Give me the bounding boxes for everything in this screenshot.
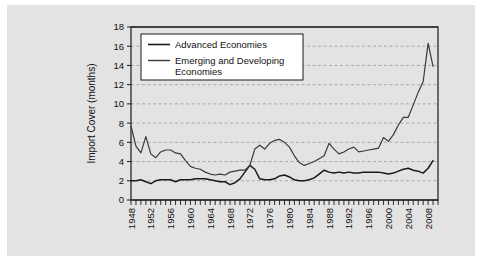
- x-tick-label-1996: 1996: [363, 208, 374, 229]
- x-tick-label-2000: 2000: [383, 208, 394, 229]
- x-tick-label-1992: 1992: [343, 208, 354, 229]
- x-tick-label-1960: 1960: [185, 208, 196, 229]
- x-tick-label-1972: 1972: [244, 208, 255, 229]
- legend-label-0: Advanced Economies: [175, 39, 267, 50]
- x-tick-label-1964: 1964: [205, 208, 216, 229]
- figure-container: 024681012141618 194819521956196019641968…: [0, 0, 482, 261]
- y-tick-label-16: 16: [113, 41, 124, 52]
- x-tick-label-1984: 1984: [304, 208, 315, 229]
- x-axis-ticks-group: [131, 200, 438, 205]
- chart-legend: Advanced EconomiesEmerging and Developin…: [141, 34, 303, 80]
- y-tick-label-6: 6: [119, 137, 124, 148]
- y-tick-label-4: 4: [119, 156, 124, 167]
- x-tick-label-1956: 1956: [165, 208, 176, 229]
- x-tick-label-1952: 1952: [145, 208, 156, 229]
- x-tick-label-1976: 1976: [264, 208, 275, 229]
- y-axis-tick-labels-group: 024681012141618: [113, 21, 124, 205]
- x-tick-label-1968: 1968: [225, 208, 236, 229]
- x-tick-label-1980: 1980: [284, 208, 295, 229]
- legend-label-1-cont: Economies: [175, 66, 222, 77]
- x-tick-label-1948: 1948: [126, 208, 137, 229]
- y-tick-label-2: 2: [119, 175, 124, 186]
- y-axis-title: Import Cover (months): [86, 63, 97, 163]
- legend-label-1: Emerging and Developing: [175, 55, 284, 66]
- y-tick-label-12: 12: [113, 79, 124, 90]
- x-axis-tick-labels-group: 1948195219561960196419681972197619801984…: [126, 208, 434, 229]
- x-tick-label-1988: 1988: [324, 208, 335, 229]
- y-tick-label-18: 18: [113, 21, 124, 32]
- x-tick-label-2004: 2004: [403, 208, 414, 229]
- y-tick-label-0: 0: [119, 194, 124, 205]
- import-cover-line-chart: 024681012141618 194819521956196019641968…: [7, 5, 475, 256]
- chart-plate: 024681012141618 194819521956196019641968…: [7, 5, 475, 256]
- y-tick-label-10: 10: [113, 98, 124, 109]
- y-tick-label-8: 8: [119, 118, 124, 129]
- y-axis-ticks-group: [127, 27, 131, 200]
- y-tick-label-14: 14: [113, 60, 124, 71]
- x-tick-label-2008: 2008: [423, 208, 434, 229]
